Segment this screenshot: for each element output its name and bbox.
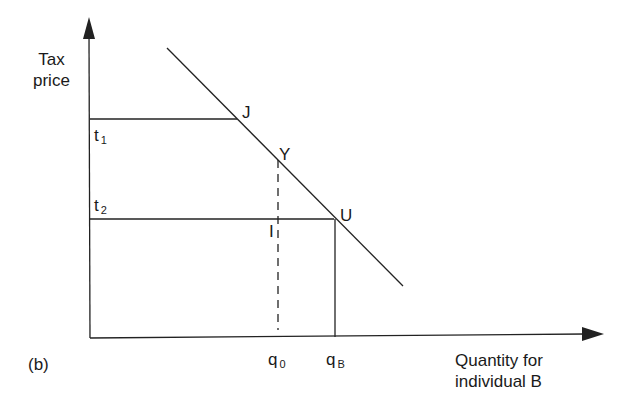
qB-subscript: B	[337, 358, 344, 370]
point-J-label: J	[242, 103, 251, 123]
point-I-label: I	[269, 222, 274, 242]
q0-subscript: 0	[279, 358, 285, 370]
t2-symbol: t	[94, 196, 99, 215]
y-axis-label-line2: price	[33, 70, 70, 91]
t1-label: t1	[94, 126, 107, 147]
x-axis-arrow-icon	[582, 327, 604, 341]
q0-symbol: q	[268, 350, 277, 369]
demand-curve	[167, 48, 403, 286]
panel-label: (b)	[28, 355, 49, 375]
q0-label: q0	[268, 350, 286, 371]
point-Y-label: Y	[279, 145, 290, 165]
x-axis-label-line2: individual B	[455, 371, 543, 392]
y-axis	[89, 36, 90, 338]
y-axis-label: Tax price	[33, 49, 70, 91]
t2-label: t2	[94, 196, 107, 217]
t2-subscript: 2	[101, 204, 107, 216]
x-axis	[90, 334, 585, 338]
x-axis-label: Quantity for individual B	[455, 350, 543, 392]
y-axis-label-line1: Tax	[33, 49, 70, 70]
qB-label: qB	[326, 350, 345, 371]
point-U-label: U	[340, 206, 352, 226]
t1-subscript: 1	[101, 134, 107, 146]
t1-symbol: t	[94, 126, 99, 145]
qB-symbol: q	[326, 350, 335, 369]
x-axis-label-line1: Quantity for	[455, 350, 543, 371]
y-axis-arrow-icon	[83, 17, 95, 39]
